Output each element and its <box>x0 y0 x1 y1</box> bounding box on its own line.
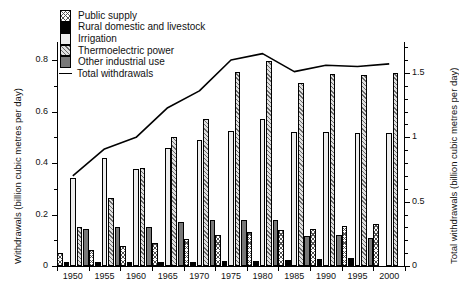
bar-irrigation-1985 <box>291 132 297 266</box>
bottom-axis-line <box>57 266 405 267</box>
right-minor-tick <box>405 47 408 48</box>
chart-legend: Public supplyRural domestic and livestoc… <box>60 10 205 80</box>
x-tick <box>89 266 90 271</box>
bar-public-supply-1980 <box>247 232 253 266</box>
bar-rural-domestic-1975 <box>222 261 228 266</box>
legend-label: Irrigation <box>78 34 117 44</box>
bar-thermoelectric-1990 <box>330 74 336 266</box>
right-minor-tick <box>405 150 408 151</box>
bar-thermoelectric-1950 <box>77 227 83 266</box>
right-tick-label: 1 <box>412 132 417 141</box>
x-tick <box>310 266 311 271</box>
x-tick <box>215 266 216 271</box>
bar-thermoelectric-2000 <box>393 73 399 266</box>
right-minor-tick <box>405 60 408 61</box>
right-tick <box>405 73 410 74</box>
bar-public-supply-1970 <box>184 239 190 266</box>
left-axis-title: Withdrawals (billion cubic metres per da… <box>12 88 23 264</box>
other-industrial-swatch <box>60 56 71 68</box>
thermoelectric-swatch <box>60 45 71 57</box>
x-tick <box>152 266 153 271</box>
legend-item-other-industrial: Other industrial use <box>60 56 205 68</box>
right-minor-tick <box>405 253 408 254</box>
x-tick <box>342 266 343 271</box>
legend-item-total-withdrawals: Total withdrawals <box>60 68 205 80</box>
legend-label: Public supply <box>78 11 137 21</box>
bar-public-supply-1985 <box>278 230 284 266</box>
legend-item-rural-domestic: Rural domestic and livestock <box>60 22 205 34</box>
bar-thermoelectric-1995 <box>361 75 367 266</box>
bar-thermoelectric-1985 <box>298 83 304 266</box>
bar-thermoelectric-1955 <box>108 198 114 266</box>
bar-rural-domestic-1960 <box>127 262 133 266</box>
bar-public-supply-2000 <box>373 224 379 266</box>
right-minor-tick <box>405 240 408 241</box>
bar-irrigation-1990 <box>323 132 329 266</box>
bar-thermoelectric-1980 <box>266 61 272 266</box>
bar-rural-domestic-1970 <box>190 262 196 266</box>
left-tick-label: 0.8 <box>18 55 48 64</box>
right-tick-label: 0 <box>412 261 417 270</box>
bar-public-supply-1990 <box>310 229 316 266</box>
legend-label: Thermoelectric power <box>78 46 174 56</box>
bar-irrigation-1965 <box>165 148 171 266</box>
bar-public-supply-1950 <box>57 253 63 266</box>
right-minor-tick <box>405 99 408 100</box>
bar-rural-domestic-1965 <box>158 262 164 266</box>
right-minor-tick <box>405 227 408 228</box>
right-minor-tick <box>405 112 408 113</box>
x-tick <box>278 266 279 271</box>
legend-item-thermoelectric: Thermoelectric power <box>60 45 205 57</box>
bar-irrigation-1975 <box>228 131 234 266</box>
bar-thermoelectric-1965 <box>171 137 177 266</box>
bar-irrigation-1960 <box>133 169 139 266</box>
public-supply-swatch <box>60 10 71 22</box>
bar-rural-domestic-1950 <box>64 262 70 266</box>
bar-public-supply-1955 <box>89 250 95 266</box>
bar-public-supply-1960 <box>120 246 126 266</box>
bar-irrigation-1970 <box>197 140 203 266</box>
legend-item-irrigation: Irrigation <box>60 33 205 45</box>
bar-public-supply-1975 <box>215 235 221 266</box>
bar-thermoelectric-1960 <box>140 168 146 266</box>
x-tick <box>120 266 121 271</box>
right-minor-tick <box>405 137 408 138</box>
x-tick <box>184 266 185 271</box>
bar-irrigation-1955 <box>102 158 108 266</box>
right-minor-tick <box>405 86 408 87</box>
bar-irrigation-1950 <box>70 178 76 266</box>
bar-irrigation-1995 <box>355 133 361 266</box>
right-axis-title: Total withdrawals (billion cubic metres … <box>448 68 459 264</box>
bar-irrigation-2000 <box>386 133 392 266</box>
legend-item-public-supply: Public supply <box>60 10 205 22</box>
bar-rural-domestic-1985 <box>285 260 291 266</box>
bar-public-supply-1965 <box>152 243 158 266</box>
bar-thermoelectric-1975 <box>235 72 241 266</box>
x-tick <box>57 266 58 271</box>
x-tick <box>373 266 374 271</box>
x-tick <box>405 266 406 271</box>
right-tick-label: 1.5 <box>412 68 425 77</box>
bar-rural-domestic-1995 <box>348 258 354 266</box>
right-minor-tick <box>405 189 408 190</box>
total-line-swatch <box>59 73 72 74</box>
bar-public-supply-1995 <box>342 226 348 266</box>
bar-thermoelectric-1970 <box>203 119 209 266</box>
right-tick-label: 0.5 <box>412 197 425 206</box>
legend-label: Other industrial use <box>78 57 165 67</box>
right-minor-tick <box>405 163 408 164</box>
right-tick <box>405 202 410 203</box>
x-tick-label-2000: 2000 <box>369 272 409 281</box>
rural-swatch <box>60 22 71 34</box>
irrigation-swatch <box>60 33 71 45</box>
bar-irrigation-1980 <box>260 119 266 266</box>
right-minor-tick <box>405 176 408 177</box>
right-minor-tick <box>405 215 408 216</box>
right-minor-tick <box>405 124 408 125</box>
bar-rural-domestic-1990 <box>317 259 323 266</box>
x-tick <box>247 266 248 271</box>
bar-rural-domestic-1980 <box>253 261 259 266</box>
legend-label: Total withdrawals <box>77 69 153 79</box>
bar-rural-domestic-1955 <box>95 262 101 266</box>
